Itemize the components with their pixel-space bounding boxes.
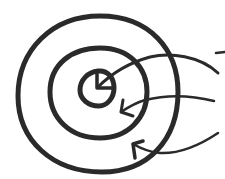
arrow-to-outer	[133, 133, 218, 153]
middle-ring	[50, 48, 147, 138]
edge-mark	[216, 52, 225, 53]
concentric-diagram	[0, 0, 225, 179]
outer-ring	[18, 16, 178, 172]
arrow-to-middle	[121, 96, 214, 112]
arrow-to-inner	[98, 55, 218, 87]
